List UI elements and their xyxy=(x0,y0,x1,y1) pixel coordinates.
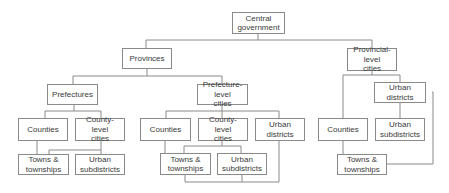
node-urban-subdistricts: Urban subdistricts xyxy=(75,154,125,175)
node-counties: Counties xyxy=(318,118,368,141)
node-prefecture-level-cities: Prefecture-level cities xyxy=(197,84,248,105)
node-urban-subdistricts: Urban subdistricts xyxy=(217,153,267,175)
node-counties: Counties xyxy=(140,118,191,141)
node-towns-townships: Towns & townships xyxy=(337,154,387,175)
node-county-level-cities: County-level cities xyxy=(198,118,248,141)
node-prefectures: Prefectures xyxy=(47,84,98,105)
node-urban-districts: Urban districts xyxy=(255,118,305,141)
node-towns-townships: Towns & townships xyxy=(160,153,211,175)
connector xyxy=(146,40,372,48)
connector xyxy=(222,146,241,153)
diagram-canvas: Central government Provinces Provincial-… xyxy=(0,0,449,193)
node-county-level-cities: County-level cities xyxy=(75,118,125,141)
node-urban-districts: Urban districts xyxy=(374,82,426,103)
node-central-government: Central government xyxy=(232,12,285,34)
node-counties: Counties xyxy=(18,118,68,141)
node-towns-townships: Towns & townships xyxy=(18,154,69,175)
node-provinces: Provinces xyxy=(122,48,172,69)
node-urban-subdistricts: Urban subdistricts xyxy=(375,118,425,141)
node-provincial-level-cities: Provincial-level cities xyxy=(347,48,397,71)
